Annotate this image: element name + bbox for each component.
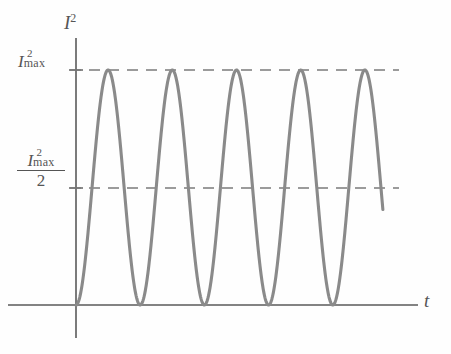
half-i2max-exponent: 2 [36, 147, 42, 158]
figure-container: I2 t I2max I2max 2 [0, 0, 451, 354]
fraction-numerator: I2max [14, 152, 68, 169]
fraction-denominator: 2 [14, 172, 68, 189]
i2max-exponent: 2 [27, 48, 33, 59]
half-i2max-expression: I2max [27, 152, 54, 169]
x-axis-title: t [424, 291, 429, 310]
y-axis-title: I2 [64, 12, 76, 32]
y-tick-label-half-i2max: I2max 2 [14, 152, 68, 189]
i2max-expression: I2max [18, 53, 45, 70]
y-axis-title-exponent: 2 [70, 11, 76, 25]
y-tick-label-i2max: I2max [18, 53, 45, 70]
